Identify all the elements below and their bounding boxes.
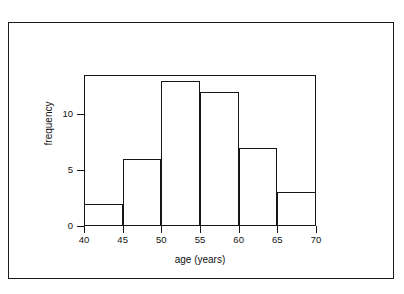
y-axis-tick-label: 0 — [33, 220, 73, 231]
y-axis-tick-mark — [77, 114, 85, 115]
histogram-bar — [161, 81, 200, 226]
histogram-bar — [84, 204, 123, 226]
x-axis-title: age (years) — [84, 254, 316, 265]
x-axis-tick-mark — [277, 226, 278, 233]
x-axis-tick-mark — [84, 226, 85, 233]
y-axis-title: frequency — [43, 84, 54, 164]
histogram-bar — [123, 159, 162, 226]
x-axis-tick-mark — [161, 226, 162, 233]
x-axis-tick-mark — [239, 226, 240, 233]
x-axis-tick-mark — [123, 226, 124, 233]
histogram-bar — [277, 192, 316, 226]
x-axis-tick-label: 70 — [301, 234, 331, 245]
histogram-bar — [200, 92, 239, 226]
x-axis-tick-label: 60 — [224, 234, 254, 245]
x-axis-tick-mark — [200, 226, 201, 233]
y-axis-tick-mark — [77, 170, 85, 171]
x-axis-tick-label: 45 — [108, 234, 138, 245]
x-axis-tick-label: 50 — [146, 234, 176, 245]
y-axis-tick-label: 5 — [33, 164, 73, 175]
x-axis-tick-label: 65 — [262, 234, 292, 245]
histogram-chart: 0510 40455055606570 frequency age (years… — [0, 0, 404, 294]
x-axis-tick-mark — [316, 226, 317, 233]
histogram-bar — [239, 148, 278, 226]
x-axis-tick-label: 40 — [69, 234, 99, 245]
page-canvas: 0510 40455055606570 frequency age (years… — [0, 0, 404, 294]
x-axis-tick-label: 55 — [185, 234, 215, 245]
